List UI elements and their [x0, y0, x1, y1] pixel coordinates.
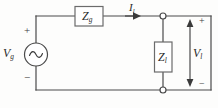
source-label-subscript: g — [10, 52, 14, 61]
output-voltage-label: Vl — [193, 47, 202, 59]
circuit-diagram: Vg Zg Il Zl Vl + − + − — [0, 0, 218, 108]
load-impedance-subscript: l — [165, 56, 167, 65]
source-label: Vg — [3, 47, 14, 59]
load-impedance-symbol: Z — [158, 50, 165, 64]
load-impedance-label: Zl — [158, 51, 167, 63]
output-minus-sign: − — [199, 79, 205, 89]
terminal-node-top — [160, 13, 166, 19]
series-impedance-label: Zg — [82, 10, 92, 22]
circuit-schematic-svg — [0, 0, 218, 108]
voltage-arrow-down — [187, 79, 194, 87]
terminal-node-bottom — [160, 87, 166, 93]
voltage-arrow-up — [187, 19, 194, 27]
series-impedance-symbol: Z — [82, 9, 89, 23]
series-impedance-subscript: g — [89, 15, 93, 24]
source-minus-sign: − — [24, 72, 30, 83]
source-plus-sign: + — [24, 25, 30, 36]
current-label: Il — [129, 2, 135, 13]
current-label-subscript: l — [133, 7, 135, 14]
output-plus-sign: + — [199, 16, 205, 26]
